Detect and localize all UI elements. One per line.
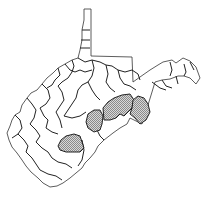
west-virginia-county-map (0, 0, 208, 199)
county-webster (86, 110, 103, 132)
state-outline (7, 9, 200, 187)
